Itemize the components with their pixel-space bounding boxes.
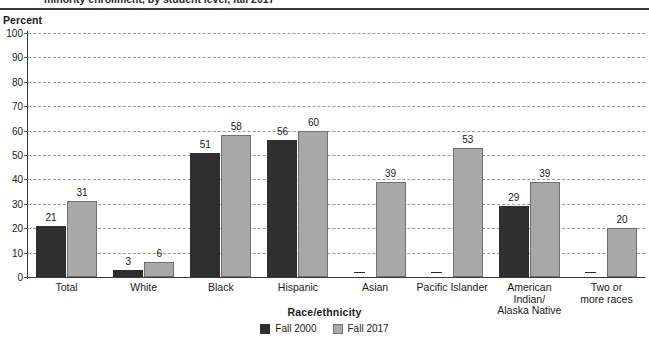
y-tick-label: 100 <box>1 28 23 39</box>
bar-group: 39 <box>345 33 406 277</box>
bar-value-label: 53 <box>451 134 485 145</box>
bar-value-label: 39 <box>528 168 562 179</box>
bar <box>190 153 220 277</box>
y-tick-label: 90 <box>1 52 23 63</box>
bar-group: 5660 <box>267 33 328 277</box>
y-tick-mark <box>24 106 28 107</box>
bar <box>530 182 560 277</box>
bar <box>298 131 328 277</box>
bar-value-label: 51 <box>188 139 222 150</box>
category-label-line: more races <box>552 294 649 306</box>
legend-label: Fall 2017 <box>348 323 389 334</box>
bar-value-label: 3 <box>111 256 145 267</box>
bar-value-label: 60 <box>296 117 330 128</box>
missing-value-dash <box>431 272 442 273</box>
x-axis-line <box>27 277 645 278</box>
y-tick-mark <box>24 131 28 132</box>
y-tick-mark <box>24 155 28 156</box>
category-label-line: Two or <box>552 282 649 294</box>
y-tick-label: 60 <box>1 125 23 136</box>
legend-label: Fall 2000 <box>275 323 316 334</box>
bar-value-label: 6 <box>142 248 176 259</box>
chart-legend: Fall 2000Fall 2017 <box>0 323 649 334</box>
legend-item: Fall 2000 <box>260 323 316 334</box>
bar <box>221 135 251 277</box>
bar-value-label: 58 <box>219 121 253 132</box>
y-tick-label: 10 <box>1 247 23 258</box>
bar-value-label: 20 <box>605 214 639 225</box>
bar <box>144 262 174 277</box>
chart-title: minority enrollment, by student level, f… <box>44 0 274 5</box>
y-tick-mark <box>24 179 28 180</box>
bar <box>499 206 529 277</box>
y-tick-mark <box>24 57 28 58</box>
bar <box>607 228 637 277</box>
bar-value-label: 21 <box>34 212 68 223</box>
bar-group: 2939 <box>499 33 560 277</box>
bar-value-label: 29 <box>497 192 531 203</box>
category-label: Two ormore races <box>552 282 649 305</box>
bar-group: 53 <box>422 33 483 277</box>
y-tick-mark <box>24 228 28 229</box>
missing-value-dash <box>585 272 596 273</box>
y-tick-label: 40 <box>1 174 23 185</box>
bar-value-label: 56 <box>265 126 299 137</box>
bar <box>453 148 483 277</box>
bar <box>376 182 406 277</box>
plot-area: 213136515856603953293920 <box>28 33 645 277</box>
missing-value-dash <box>354 272 365 273</box>
x-axis-title: Race/ethnicity <box>0 306 649 318</box>
legend-swatch <box>333 324 343 334</box>
bar <box>267 140 297 277</box>
y-tick-label: 30 <box>1 198 23 209</box>
bar <box>113 270 143 277</box>
y-tick-mark <box>24 277 28 278</box>
y-tick-label: 0 <box>1 272 23 283</box>
legend-item: Fall 2017 <box>333 323 389 334</box>
bar-group: 20 <box>576 33 637 277</box>
bar-value-label: 31 <box>65 187 99 198</box>
y-tick-label: 20 <box>1 223 23 234</box>
bar-group: 2131 <box>36 33 97 277</box>
bar-group: 5158 <box>190 33 251 277</box>
y-tick-label: 50 <box>1 150 23 161</box>
legend-swatch <box>260 324 270 334</box>
y-tick-mark <box>24 253 28 254</box>
y-tick-mark <box>24 33 28 34</box>
y-tick-label: 80 <box>1 76 23 87</box>
bar-group: 36 <box>113 33 174 277</box>
y-tick-mark <box>24 82 28 83</box>
y-tick-mark <box>24 204 28 205</box>
bar-value-label: 39 <box>374 168 408 179</box>
bar <box>67 201 97 277</box>
bar <box>36 226 66 277</box>
title-divider-rule <box>0 8 649 10</box>
y-tick-label: 70 <box>1 101 23 112</box>
